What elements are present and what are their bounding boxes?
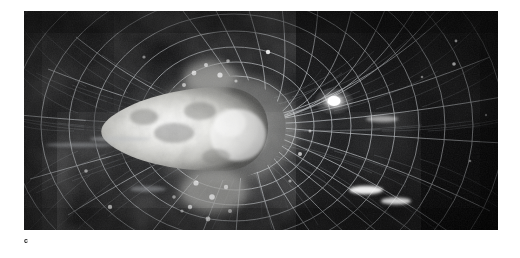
scientific-image-plate xyxy=(24,11,498,230)
panel-label-c: c xyxy=(24,236,28,245)
projection-grid-graphic xyxy=(24,11,498,230)
sensor-grain-layer xyxy=(24,11,498,230)
figure-panel: c xyxy=(0,0,520,258)
